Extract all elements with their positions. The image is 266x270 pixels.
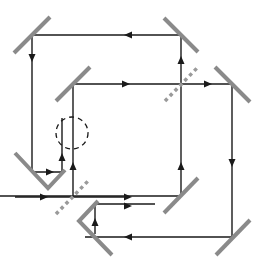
interaction-region xyxy=(56,117,88,149)
arrow-corner-left-up-icon xyxy=(59,153,66,161)
arrow-center-up-icon xyxy=(70,162,77,170)
corner-reflectors xyxy=(15,153,112,255)
arrow-inner-right-icon xyxy=(122,81,130,88)
direction-arrows xyxy=(29,32,236,241)
mirrors xyxy=(14,17,250,255)
arrow-right-up-icon xyxy=(178,162,185,170)
arrow-top-left-icon xyxy=(124,32,132,39)
arrow-output-right-icon xyxy=(124,194,132,201)
optical-path-diagram xyxy=(0,0,266,270)
arrow-right-down-icon xyxy=(229,159,236,167)
beam-center-up xyxy=(73,84,232,237)
dashed-circle xyxy=(56,117,88,149)
corner-left xyxy=(15,153,65,188)
beam-left-down xyxy=(32,35,62,172)
beam-paths xyxy=(0,35,232,237)
arrow-input-right-icon xyxy=(40,194,48,201)
arrow-bottom-up-icon xyxy=(92,218,99,226)
arrow-splitter-up-icon xyxy=(178,56,185,64)
beam-splitters xyxy=(56,67,198,214)
arrow-left-down-icon xyxy=(29,54,36,62)
arrow-bottom-left-icon xyxy=(124,234,132,241)
arrow-splitter-right-icon xyxy=(204,81,212,88)
arrow-corner-left-right-icon xyxy=(46,169,54,176)
